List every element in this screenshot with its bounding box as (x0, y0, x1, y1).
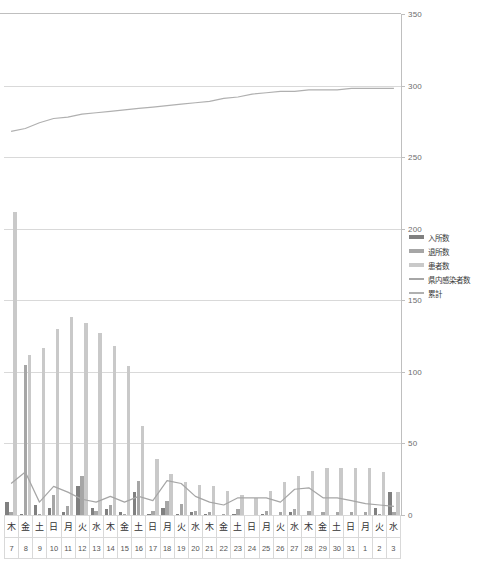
bar-taisho (80, 476, 83, 515)
y-axis-tick-label: 350 (408, 10, 422, 19)
x-axis-dayofweek-cell: 木 (4, 515, 19, 537)
bar-kanja (84, 323, 87, 515)
bar-column (231, 14, 245, 515)
x-axis-dayofmonth-cell: 10 (47, 537, 61, 559)
bar-column (358, 14, 372, 515)
chart-container: 050100150200250300350 木金土日月火水木金土日月火水木金土日… (0, 0, 488, 564)
bar-column (18, 14, 32, 515)
bar-column (32, 14, 46, 515)
x-axis-dayofmonth-cell: 15 (118, 537, 132, 559)
bar-kanja (98, 333, 101, 515)
legend-item[interactable]: 県内感染者数 (409, 272, 485, 286)
x-axis-dayofmonth-cell: 16 (132, 537, 146, 559)
bar-kanja (28, 355, 31, 515)
bar-kanja (283, 482, 286, 515)
x-axis-dayofmonth-cell: 19 (175, 537, 189, 559)
x-axis: 木金土日月火水木金土日月火水木金土日月火水木金土日月火水 78910111213… (4, 515, 401, 559)
y-axis-tick-label: 0 (408, 511, 413, 520)
bar-column (188, 14, 202, 515)
y-axis-tick-mark (401, 515, 405, 516)
x-axis-dayofweek-cell: 火 (175, 515, 189, 537)
y-axis-tick-mark (401, 157, 405, 158)
bar-column (273, 14, 287, 515)
x-axis-dayofmonth-cell: 25 (260, 537, 274, 559)
y-axis-tick-label: 50 (408, 439, 417, 448)
bar-column (373, 14, 387, 515)
y-axis-tick-label: 100 (408, 367, 422, 376)
bar-column (4, 14, 18, 515)
legend-label: 退所数 (428, 246, 449, 257)
x-axis-dayofweek-cell: 金 (118, 515, 132, 537)
bar-column (146, 14, 160, 515)
x-axis-dayofweek-cell: 月 (359, 515, 373, 537)
bar-nyusho (48, 508, 51, 515)
legend-label: 累計 (428, 288, 442, 299)
legend-item[interactable]: 累計 (409, 286, 485, 300)
x-axis-dayofweek-cell: 月 (161, 515, 175, 537)
y-axis-tick-label: 300 (408, 81, 422, 90)
bar-nyusho (388, 492, 391, 515)
legend-swatch-line (409, 292, 424, 294)
bar-kanja (311, 471, 314, 515)
bar-kanja (254, 498, 257, 515)
legend-item[interactable]: 退所数 (409, 244, 485, 258)
bar-column (259, 14, 273, 515)
legend-item[interactable]: 患者数 (409, 258, 485, 272)
bar-column (132, 14, 146, 515)
x-axis-dayofmonth-cell: 12 (76, 537, 90, 559)
bar-column (103, 14, 117, 515)
bar-kanja (339, 468, 342, 515)
x-axis-dayofweek-cell: 火 (274, 515, 288, 537)
x-axis-dayofweek-cell: 木 (203, 515, 217, 537)
bar-column (89, 14, 103, 515)
x-axis-dayofmonth-cell: 21 (203, 537, 217, 559)
bar-column (288, 14, 302, 515)
bar-column (217, 14, 231, 515)
bar-kanja (269, 491, 272, 515)
bar-taisho (109, 505, 112, 515)
bar-nyusho (76, 486, 79, 515)
bar-kanja (70, 317, 73, 515)
legend-swatch-bar (409, 249, 424, 253)
x-axis-dayofweek-cell: 土 (132, 515, 146, 537)
x-axis-dayofmonth-cell: 26 (274, 537, 288, 559)
bar-taisho (24, 365, 27, 515)
bar-kanja (169, 474, 172, 516)
bar-kanja (141, 426, 144, 515)
x-axis-dayofmonth-cell: 22 (217, 537, 231, 559)
bar-kanja (56, 329, 59, 515)
bar-kanja (396, 492, 399, 515)
bar-kanja (226, 491, 229, 515)
x-axis-dayofweek-cell: 木 (104, 515, 118, 537)
bar-column (61, 14, 75, 515)
bar-column (117, 14, 131, 515)
bar-taisho (52, 495, 55, 515)
x-axis-dayofmonth-cell: 2 (373, 537, 387, 559)
bar-column (245, 14, 259, 515)
legend: 入所数退所数患者数県内感染者数累計 (409, 230, 485, 300)
x-axis-dayofweek-cell: 金 (19, 515, 33, 537)
legend-swatch-bar (409, 235, 424, 239)
x-axis-dayofmonth-cell: 29 (316, 537, 330, 559)
legend-swatch-bar (409, 263, 424, 267)
x-axis-dayofmonth-cell: 31 (344, 537, 358, 559)
x-axis-dayofmonth-cell: 24 (245, 537, 259, 559)
x-axis-dayofmonth-cell: 1 (359, 537, 373, 559)
x-axis-dayofweek-cell: 水 (387, 515, 401, 537)
x-axis-dayofmonth-cell: 18 (161, 537, 175, 559)
x-axis-dayofmonth-cell: 11 (62, 537, 76, 559)
x-axis-dayofmonth-row: 7891011121314151617181920212223242526272… (4, 537, 401, 559)
bar-kanja (354, 468, 357, 515)
legend-item[interactable]: 入所数 (409, 230, 485, 244)
bar-kanja (155, 459, 158, 515)
bar-column (160, 14, 174, 515)
x-axis-dayofweek-cell: 土 (231, 515, 245, 537)
y-axis-tick-mark (401, 443, 405, 444)
bar-taisho (137, 481, 140, 515)
bar-kanja (368, 468, 371, 515)
x-axis-dayofmonth-cell: 13 (90, 537, 104, 559)
bar-kanja (13, 212, 16, 515)
legend-swatch-line (409, 278, 424, 280)
bar-column (47, 14, 61, 515)
bar-column (174, 14, 188, 515)
